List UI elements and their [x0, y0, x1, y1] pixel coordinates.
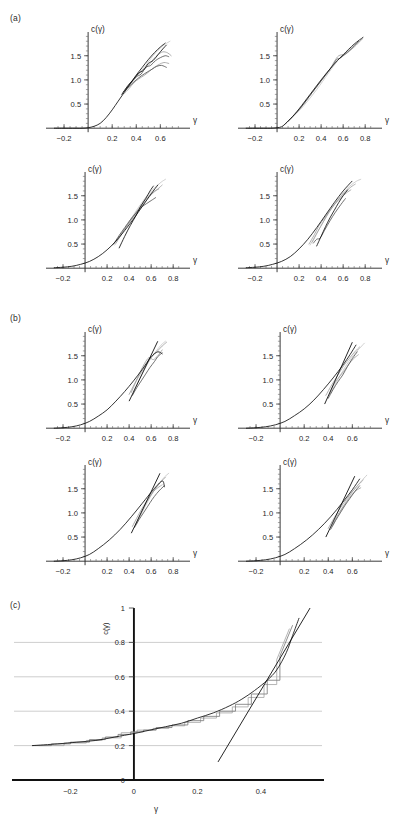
x-tick-label: 0.8	[360, 274, 371, 283]
series-tangent-line	[326, 476, 355, 537]
series-tangent-line	[218, 608, 310, 762]
x-tick-label: 0	[132, 787, 136, 796]
plot-panel-a4: −0.20.20.40.60.80.51.01.5c(γ)γ	[200, 162, 390, 302]
series-empirical-cdf-dark	[32, 618, 299, 745]
y-axis-title: c(γ)	[280, 25, 294, 34]
x-tick-label: 0.2	[294, 134, 305, 143]
y-tick-label: 1.5	[67, 192, 78, 201]
x-tick-label: 0.2	[299, 434, 310, 443]
x-tick-label: 0.6	[146, 567, 157, 576]
y-tick-label: 0.5	[71, 100, 82, 109]
x-tick-label: 0.8	[168, 274, 179, 283]
y-tick-label: 1.5	[263, 352, 274, 361]
x-tick-label: 0.8	[168, 434, 179, 443]
y-tick-label: 0.5	[67, 400, 78, 409]
y-axis-title: c(γ)	[88, 165, 102, 174]
plot-panel-a1: −0.20.20.40.60.51.01.5c(γ)γ	[8, 22, 198, 162]
series-sample-1	[119, 186, 153, 248]
y-tick-label: 0.5	[263, 533, 274, 542]
series-reference-dark	[54, 352, 162, 428]
series-tangent-line	[129, 341, 158, 401]
chart-a1: −0.20.20.40.60.51.01.5c(γ)γ	[8, 22, 198, 162]
y-tick-label: 0	[121, 776, 125, 785]
x-tick-label: 0.6	[338, 274, 349, 283]
plot-panel-a3: −0.20.20.40.60.80.51.01.5c(γ)γ	[8, 162, 198, 302]
x-tick-label: 0.4	[316, 134, 327, 143]
plot-panel-b2: −0.20.20.40.60.51.01.5c(γ)γ	[200, 322, 390, 462]
y-axis-title: c(γ)	[88, 325, 102, 334]
y-tick-label: 1.0	[71, 76, 82, 85]
x-tick-label: 0.4	[124, 274, 135, 283]
x-tick-label: 0.2	[102, 274, 113, 283]
x-tick-label: 0.4	[323, 434, 334, 443]
series-sample-4	[333, 475, 367, 525]
y-tick-label: 0.6	[115, 673, 125, 682]
y-tick-label: 1.0	[67, 509, 78, 518]
y-tick-label: 0.5	[259, 100, 270, 109]
chart-a3: −0.20.20.40.60.80.51.01.5c(γ)γ	[8, 162, 198, 302]
x-tick-label: 0.2	[107, 134, 118, 143]
y-tick-label: 1.0	[263, 509, 274, 518]
y-axis-title: c(γ)	[88, 458, 102, 467]
x-tick-label: 0.6	[146, 434, 157, 443]
x-axis-title: γ	[154, 805, 159, 814]
y-tick-label: 1.0	[259, 76, 270, 85]
x-tick-label: −0.2	[57, 134, 72, 143]
y-tick-label: 1.0	[259, 216, 270, 225]
y-tick-label: 1.5	[67, 352, 78, 361]
y-tick-label: 0.5	[67, 240, 78, 249]
y-tick-label: 0.5	[263, 400, 274, 409]
x-tick-label: 0.6	[338, 134, 349, 143]
x-tick-label: −0.2	[56, 567, 71, 576]
x-tick-label: 0.6	[146, 274, 157, 283]
y-tick-label: 1.0	[67, 376, 78, 385]
y-axis-title: c(γ)	[283, 325, 297, 334]
plot-panel-b3: −0.20.20.40.60.80.51.01.5c(γ)γ	[8, 455, 198, 595]
x-axis-title: γ	[193, 416, 198, 425]
series-sample-1	[331, 486, 360, 529]
plot-panel-b4: −0.20.20.40.60.51.01.5c(γ)γ	[200, 455, 390, 595]
series-sample-4	[134, 341, 166, 391]
x-tick-label: 0.6	[347, 434, 358, 443]
x-tick-label: 0.4	[124, 434, 135, 443]
chart-c1: 00.20.40.60.81−0.200.20.4c(γ)γ	[8, 598, 388, 826]
x-axis-title: γ	[193, 116, 198, 125]
y-tick-label: 1.5	[259, 52, 270, 61]
x-tick-label: 0.4	[316, 274, 327, 283]
x-tick-label: −0.2	[56, 274, 71, 283]
series-tangent-line	[131, 473, 160, 533]
x-tick-label: 0.2	[192, 787, 202, 796]
y-axis-title: c(γ)	[280, 165, 294, 174]
x-tick-label: −0.2	[248, 274, 263, 283]
figure-root: (a) (b) (c) −0.20.20.40.60.51.01.5c(γ)γ …	[0, 0, 394, 829]
x-tick-label: 0.2	[299, 567, 310, 576]
chart-b1: −0.20.20.40.60.80.51.01.5c(γ)γ	[8, 322, 198, 462]
chart-a4: −0.20.20.40.60.80.51.01.5c(γ)γ	[200, 162, 390, 302]
series-sample-4	[312, 184, 355, 242]
y-axis-title: c(γ)	[101, 622, 110, 634]
x-axis-title: γ	[385, 416, 390, 425]
plot-panel-c1: 00.20.40.60.81−0.200.20.4c(γ)γ	[8, 598, 388, 826]
plot-panel-a2: −0.20.20.40.60.80.51.01.5c(γ)γ	[200, 22, 390, 162]
series-sample-2	[132, 477, 165, 526]
x-tick-label: 0.8	[168, 567, 179, 576]
series-sample-2	[313, 199, 345, 243]
chart-b2: −0.20.20.40.60.51.01.5c(γ)γ	[200, 322, 390, 462]
x-tick-label: 0.6	[347, 567, 358, 576]
chart-b3: −0.20.20.40.60.80.51.01.5c(γ)γ	[8, 455, 198, 595]
x-tick-label: 0.2	[102, 434, 113, 443]
x-axis-title: γ	[385, 256, 390, 265]
y-tick-label: 0.8	[115, 638, 125, 647]
x-tick-label: 0.2	[102, 567, 113, 576]
x-tick-label: −0.2	[63, 787, 78, 796]
x-tick-label: 0.4	[131, 134, 142, 143]
x-tick-label: 0.6	[155, 134, 166, 143]
series-sample-4	[116, 189, 159, 243]
x-axis-title: γ	[385, 116, 390, 125]
y-axis-title: c(γ)	[283, 458, 297, 467]
x-axis-title: γ	[193, 256, 198, 265]
series-sample-2	[129, 342, 166, 394]
x-tick-label: 0.8	[360, 134, 371, 143]
y-tick-label: 0.5	[259, 240, 270, 249]
y-axis-title: c(γ)	[91, 25, 105, 34]
